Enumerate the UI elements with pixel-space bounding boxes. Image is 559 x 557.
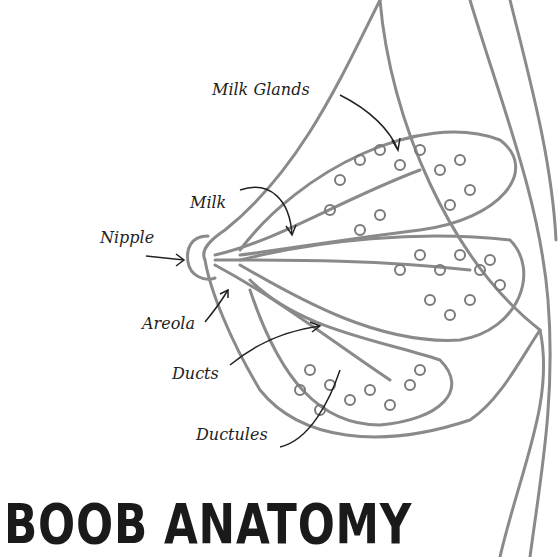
label-areola: Areola bbox=[142, 314, 195, 333]
label-milk-glands: Milk Glands bbox=[212, 80, 310, 99]
label-nipple: Nipple bbox=[100, 228, 154, 247]
label-ductules: Ductules bbox=[196, 425, 268, 444]
diagram-title: BOOB ANATOMY bbox=[4, 496, 412, 552]
label-milk: Milk bbox=[190, 193, 226, 212]
label-ducts: Ducts bbox=[172, 364, 219, 383]
